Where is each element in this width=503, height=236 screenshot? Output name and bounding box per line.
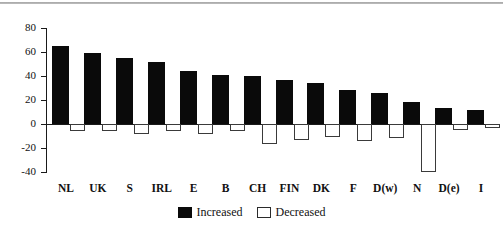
bar-decreased xyxy=(389,124,404,138)
bar-increased xyxy=(307,83,324,124)
x-axis-tick-label: CH xyxy=(242,182,274,194)
bar-increased xyxy=(244,76,261,124)
bar-decreased xyxy=(294,124,309,140)
x-axis-tick-label: B xyxy=(210,182,242,194)
bar-increased xyxy=(52,46,69,124)
bar-decreased xyxy=(70,124,85,131)
legend-item-increased: Increased xyxy=(178,206,243,218)
y-axis-tick-mark xyxy=(41,148,47,149)
bar-decreased xyxy=(262,124,277,144)
x-axis-tick-label: S xyxy=(114,182,146,194)
legend-label-increased: Increased xyxy=(197,206,243,218)
y-axis-tick-mark xyxy=(41,76,47,77)
bar-increased xyxy=(148,62,165,124)
y-axis-tick-label: -40 xyxy=(12,166,36,177)
x-axis-tick-label: D(e) xyxy=(433,182,465,194)
y-axis-tick-mark xyxy=(41,172,47,173)
bar-decreased xyxy=(485,124,500,128)
y-axis-tick-mark xyxy=(41,52,47,53)
x-axis-tick-label: E xyxy=(178,182,210,194)
bar-chart: 806040200-20-40NLUKSIRLEBCHFINDKFD(w)ND(… xyxy=(0,0,503,236)
bar-decreased xyxy=(453,124,468,130)
bar-decreased xyxy=(357,124,372,141)
bar-increased xyxy=(467,110,484,124)
chart-legend: Increased Decreased xyxy=(0,206,503,218)
x-axis-tick-label: N xyxy=(401,182,433,194)
bar-decreased xyxy=(102,124,117,131)
bar-decreased xyxy=(230,124,245,131)
x-axis-tick-label: I xyxy=(465,182,497,194)
bar-decreased xyxy=(198,124,213,134)
x-axis-tick-label: UK xyxy=(82,182,114,194)
y-axis-tick-mark xyxy=(41,100,47,101)
y-axis-tick-label: 20 xyxy=(12,94,36,105)
x-axis-tick-label: D(w) xyxy=(369,182,401,194)
x-axis-tick-label: FIN xyxy=(274,182,306,194)
bar-decreased xyxy=(421,124,436,172)
bar-increased xyxy=(339,90,356,124)
y-axis-tick-mark xyxy=(41,28,47,29)
filled-square-icon xyxy=(178,207,192,218)
bar-decreased xyxy=(134,124,149,134)
y-axis-tick-label: 40 xyxy=(12,70,36,81)
bar-increased xyxy=(371,93,388,124)
y-axis-tick-label: -20 xyxy=(12,142,36,153)
open-square-icon xyxy=(257,207,271,218)
bar-increased xyxy=(212,75,229,124)
x-axis-tick-label: IRL xyxy=(146,182,178,194)
bar-decreased xyxy=(325,124,340,137)
x-axis-tick-label: NL xyxy=(50,182,82,194)
bar-decreased xyxy=(166,124,181,131)
legend-label-decreased: Decreased xyxy=(276,206,326,218)
bar-increased xyxy=(403,102,420,124)
y-axis-tick-label: 80 xyxy=(12,22,36,33)
y-axis-tick-label: 60 xyxy=(12,46,36,57)
y-axis-tick-label: 0 xyxy=(12,118,36,129)
bar-increased xyxy=(116,58,133,124)
x-axis-tick-label: F xyxy=(337,182,369,194)
bar-increased xyxy=(435,108,452,124)
bar-increased xyxy=(180,71,197,124)
bar-increased xyxy=(276,80,293,124)
bar-increased xyxy=(84,53,101,124)
legend-item-decreased: Decreased xyxy=(257,206,326,218)
x-axis-tick-label: DK xyxy=(305,182,337,194)
